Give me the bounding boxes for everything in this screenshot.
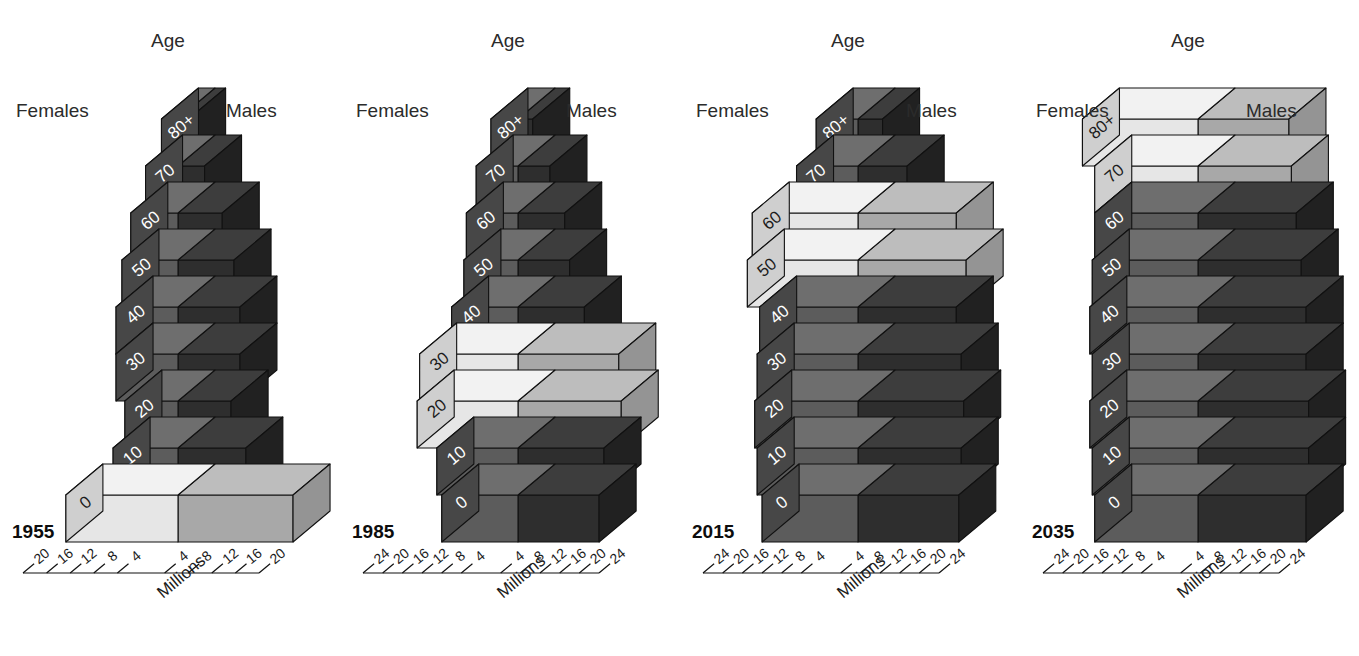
axis-tick <box>919 564 930 573</box>
axis-tick <box>723 564 734 573</box>
axis-tick <box>501 564 512 573</box>
axis-tick <box>235 564 246 573</box>
axis-tick <box>1082 564 1093 573</box>
axis-tick <box>742 564 753 573</box>
pyramid-canvas-1955: 80+7060504030201004812162048121620Millio… <box>0 0 340 656</box>
axis-tick <box>1240 564 1251 573</box>
females-label-1955: Females <box>16 100 89 122</box>
axis-tick <box>259 564 270 573</box>
axis-2015: 48121620244812162024Millions <box>703 545 969 602</box>
axis-tick <box>212 564 223 573</box>
axis-tick <box>23 564 34 573</box>
axis-tick <box>900 564 911 573</box>
axis-tick <box>1063 564 1074 573</box>
bar-male-0-front <box>178 495 293 542</box>
pyramid-panel-2015: 80+70605040302010048121620244812162024Mi… <box>680 0 1020 656</box>
age-axis-title-2015: Age <box>831 30 865 52</box>
axis-tick-label: 4 <box>1152 547 1168 564</box>
axis-tick-label: 8 <box>1132 547 1148 564</box>
bar-male-0-front <box>518 495 599 542</box>
axis-tick <box>402 564 413 573</box>
females-label-2015: Females <box>696 100 769 122</box>
axis-tick <box>1279 564 1290 573</box>
axis-tick <box>47 564 58 573</box>
axis-tick <box>1141 564 1152 573</box>
pyramid-panel-1985: 80+70605040302010048121620244812162024Mi… <box>340 0 680 656</box>
axis-tick <box>560 564 571 573</box>
males-label-2015: Males <box>906 100 957 122</box>
axis-2035: 48121620244812162024Millions <box>1043 545 1309 602</box>
females-label-2035: Females <box>1036 100 1109 122</box>
axis-tick <box>801 564 812 573</box>
pyramid-canvas-2015: 80+70605040302010048121620244812162024Mi… <box>680 0 1020 656</box>
axis-tick-label: 4 <box>812 547 828 564</box>
axis-tick <box>70 564 81 573</box>
bar-male-0-front <box>858 495 959 542</box>
axis-tick <box>841 564 852 573</box>
males-label-2035: Males <box>1246 100 1297 122</box>
age-axis-title-1955: Age <box>151 30 185 52</box>
axis-tick <box>703 564 714 573</box>
axis-tick <box>442 564 453 573</box>
year-label-2015: 2015 <box>692 521 734 543</box>
axis-tick-label: 8 <box>792 547 808 564</box>
axis-tick <box>599 564 610 573</box>
pyramid-canvas-1985: 80+70605040302010048121620244812162024Mi… <box>340 0 680 656</box>
axis-tick-label: 8 <box>104 547 120 564</box>
axis-tick <box>422 564 433 573</box>
year-label-1985: 1985 <box>352 521 394 543</box>
axis-tick <box>1259 564 1270 573</box>
axis-tick <box>117 564 128 573</box>
axis-tick-label: 4 <box>128 547 144 564</box>
axis-tick <box>363 564 374 573</box>
males-label-1985: Males <box>566 100 617 122</box>
axis-tick <box>383 564 394 573</box>
pyramid-canvas-2035: 80+70605040302010048121620244812162024Mi… <box>1020 0 1359 656</box>
pyramid-panel-1955: 80+7060504030201004812162048121620Millio… <box>0 0 340 656</box>
axis-tick <box>1122 564 1133 573</box>
age-axis-title-1985: Age <box>491 30 525 52</box>
year-label-2035: 2035 <box>1032 521 1074 543</box>
axis-tick <box>762 564 773 573</box>
axis-1985: 48121620244812162024Millions <box>363 545 629 602</box>
axis-tick-label: 4 <box>472 547 488 564</box>
axis-tick <box>94 564 105 573</box>
pyramid-panel-2035: 80+70605040302010048121620244812162024Mi… <box>1020 0 1359 656</box>
axis-tick <box>461 564 472 573</box>
males-label-1955: Males <box>226 100 277 122</box>
age-axis-title-2035: Age <box>1171 30 1205 52</box>
axis-tick <box>579 564 590 573</box>
axis-tick <box>1102 564 1113 573</box>
axis-1955: 4812162048121620Millions <box>23 545 289 602</box>
year-label-1955: 1955 <box>12 521 54 543</box>
axis-tick-label: 8 <box>452 547 468 564</box>
axis-tick <box>939 564 950 573</box>
females-label-1985: Females <box>356 100 429 122</box>
axis-tick <box>1043 564 1054 573</box>
axis-tick <box>1181 564 1192 573</box>
bar-male-0-front <box>1198 495 1306 542</box>
axis-tick <box>782 564 793 573</box>
